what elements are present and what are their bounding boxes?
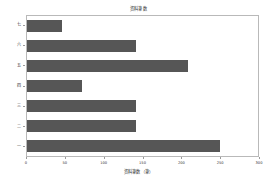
- y-axis-tick-label: 四: [0, 76, 24, 96]
- chart-title: 资料筆数: [0, 6, 277, 12]
- x-axis-tick-mark: [181, 157, 182, 159]
- bar-row: [27, 96, 258, 116]
- bar-row: [27, 116, 258, 136]
- y-axis-tick-label: 一: [0, 137, 24, 157]
- x-axis-tick-label: 300: [256, 160, 263, 166]
- x-axis-tick-mark: [26, 157, 27, 159]
- plot-area: [26, 15, 259, 157]
- x-axis-tick-mark: [65, 157, 66, 159]
- tick-mark: [23, 126, 25, 127]
- bar: [27, 140, 220, 153]
- tick-mark: [23, 45, 25, 46]
- bar: [27, 40, 136, 53]
- bar-row: [27, 136, 258, 156]
- x-axis-tick-mark: [220, 157, 221, 159]
- tick-mark: [23, 65, 25, 66]
- bar: [27, 20, 62, 33]
- tick-mark: [23, 106, 25, 107]
- y-axis-tick-label: 三: [0, 96, 24, 116]
- bar-row: [27, 36, 258, 56]
- x-axis-tick-label: 150: [139, 160, 146, 166]
- tick-mark: [23, 146, 25, 147]
- x-axis-tick-mark: [104, 157, 105, 159]
- y-axis-tick-label: 七: [0, 15, 24, 35]
- tick-mark: [23, 86, 25, 87]
- x-axis-tick-label: 50: [63, 160, 68, 166]
- x-axis-tick-label: 200: [178, 160, 185, 166]
- chart-figure: 资料筆数 七六五四三二一 050100150200250300 资料筆数（筆）: [0, 0, 277, 181]
- x-axis-tick-label: 100: [100, 160, 107, 166]
- bar-row: [27, 76, 258, 96]
- x-axis-tick-mark: [143, 157, 144, 159]
- bar-row: [27, 16, 258, 36]
- x-axis-tick-label: 0: [25, 160, 27, 166]
- x-axis-tick-label: 250: [217, 160, 224, 166]
- x-axis-tick-labels: 050100150200250300: [26, 160, 259, 167]
- bar: [27, 120, 136, 133]
- bar: [27, 60, 188, 73]
- y-axis-tick-label: 五: [0, 56, 24, 76]
- bar-series: [27, 16, 258, 156]
- x-axis-tick-mark: [259, 157, 260, 159]
- tick-mark: [23, 25, 25, 26]
- y-axis-tick-label: 六: [0, 35, 24, 55]
- bar-row: [27, 56, 258, 76]
- x-axis-title: 资料筆数（筆）: [0, 168, 277, 175]
- y-axis-tick-label: 二: [0, 116, 24, 136]
- bar: [27, 80, 82, 93]
- y-axis-tick-labels: 七六五四三二一: [0, 15, 24, 157]
- bar: [27, 100, 136, 113]
